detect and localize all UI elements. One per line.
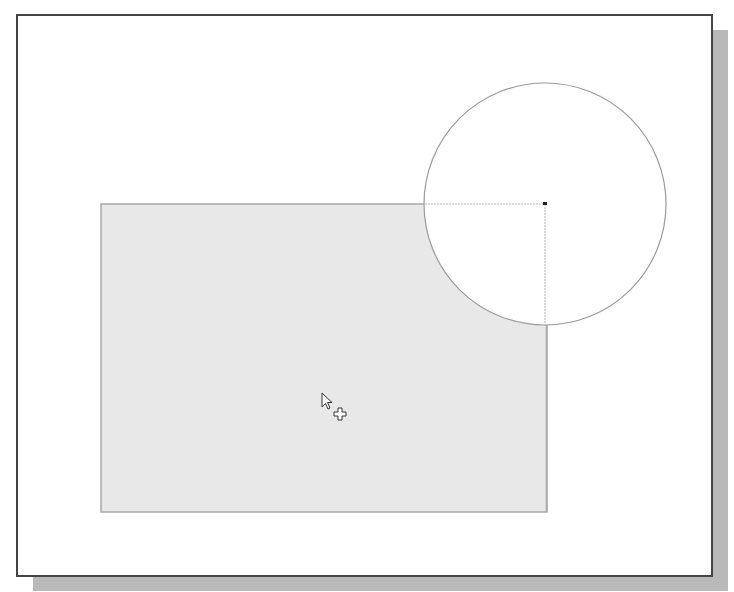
corner-marker-icon	[543, 202, 547, 205]
drawing-canvas[interactable]	[0, 0, 734, 592]
